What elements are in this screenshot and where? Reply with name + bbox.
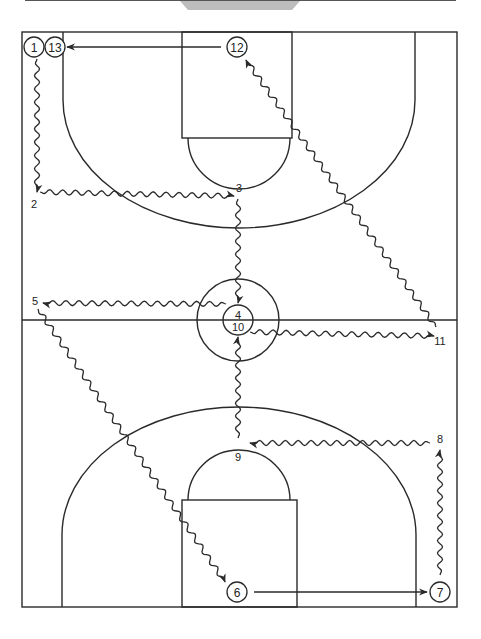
dribble-4-to-5: [43, 301, 226, 307]
header-strip: [25, 1, 456, 11]
header-tab-shape: [180, 1, 300, 10]
spot-label-10: 10: [232, 321, 244, 333]
dribble-2-to-3: [40, 190, 234, 199]
spot-label-8: 8: [437, 433, 443, 445]
dribble-9-to-10: [236, 337, 241, 438]
bottom-three-point-arc: [62, 407, 416, 607]
spot-label-11: 11: [434, 335, 445, 347]
player-label: 12: [230, 41, 244, 55]
spot-label-9: 9: [235, 451, 241, 463]
player-7-marker: 7: [430, 582, 450, 602]
dribble-3-to-4: [236, 199, 241, 303]
drill-diagram: 1 13 12 2 3 4 10 5 11 8 9 6: [0, 0, 481, 639]
player-label: 13: [48, 41, 62, 55]
player-label: 1: [31, 41, 38, 55]
player-1-marker: 1: [24, 37, 44, 57]
dribble-5-to-6: [38, 309, 225, 582]
court-svg: 1 13 12 2 3 4 10 5 11 8 9 6: [0, 0, 481, 639]
dribble-1-to-2: [35, 59, 40, 192]
top-three-point-arc: [63, 32, 415, 228]
dribble-8-to-9: [250, 441, 430, 446]
player-label: 6: [234, 586, 241, 600]
dribble-11-to-12: [246, 60, 436, 327]
player-6-marker: 6: [227, 582, 247, 602]
dribble-7-to-8: [438, 450, 443, 575]
player-12-marker: 12: [227, 37, 247, 57]
player-13-marker: 13: [45, 37, 65, 57]
player-label: 7: [437, 586, 444, 600]
spot-label-5: 5: [32, 295, 38, 307]
spot-label-3: 3: [236, 182, 242, 194]
spot-label-2: 2: [31, 198, 37, 210]
spot-label-4: 4: [235, 309, 241, 321]
